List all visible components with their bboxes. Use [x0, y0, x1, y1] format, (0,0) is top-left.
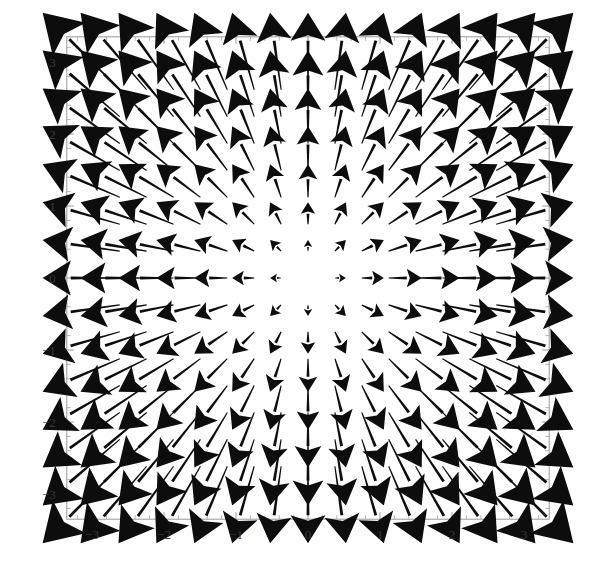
quiver-plot: −3−2−10123−3−2−10123: [0, 0, 593, 577]
x-tick-label: 3: [521, 527, 528, 542]
x-tick-label: 1: [377, 527, 384, 542]
x-tick-label: 2: [449, 527, 456, 542]
x-tick-label: −2: [157, 527, 171, 542]
y-tick-label: 1: [49, 199, 56, 214]
y-tick-label: 3: [49, 55, 56, 70]
x-tick-label: −1: [229, 527, 243, 542]
y-tick-label: −1: [42, 343, 56, 358]
x-tick-label: −3: [85, 527, 99, 542]
y-tick-label: −2: [42, 415, 56, 430]
x-tick-label: 0: [305, 527, 312, 542]
y-tick-label: −3: [42, 487, 56, 502]
y-tick-label: 2: [49, 127, 56, 142]
vector-field-figure: −3−2−10123−3−2−10123: [0, 0, 593, 577]
y-tick-label: 0: [49, 271, 56, 286]
